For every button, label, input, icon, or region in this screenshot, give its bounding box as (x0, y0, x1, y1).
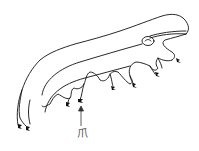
body-outline (17, 14, 188, 125)
annotation-arrow (79, 106, 84, 126)
belly-outline (42, 58, 172, 107)
tardigrade-figure: 爪 (0, 0, 199, 151)
tardigrade-drawing (0, 0, 199, 151)
head-outline (163, 34, 186, 60)
eye-icon (142, 37, 154, 46)
claw-label: 爪 (74, 128, 90, 140)
